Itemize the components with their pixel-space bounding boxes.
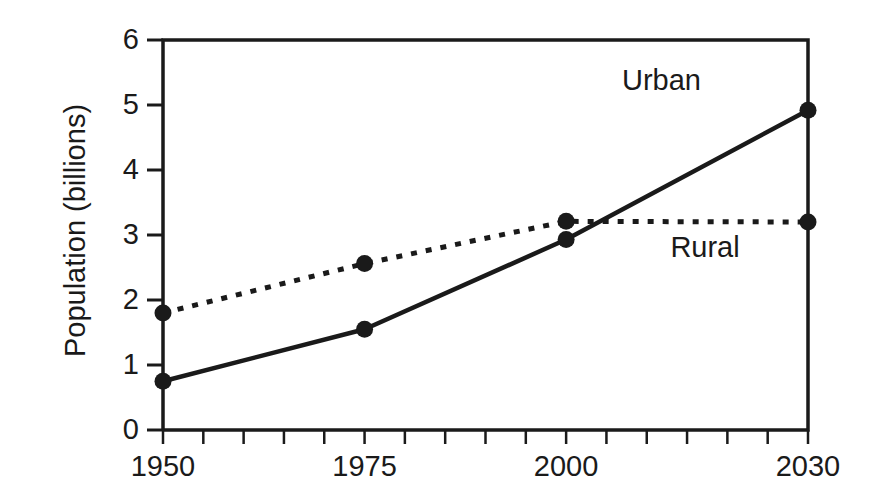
series-label-urban: Urban: [622, 66, 701, 95]
y-axis-ticks: [147, 40, 163, 430]
series-rural: [155, 213, 817, 322]
y-tick-label: 4: [99, 155, 139, 184]
y-tick-label: 3: [99, 220, 139, 249]
data-point: [356, 255, 373, 272]
data-point: [356, 321, 373, 338]
y-axis-title: Population (billions): [59, 36, 92, 426]
y-tick-label: 2: [99, 285, 139, 314]
series-label-rural: Rural: [670, 233, 739, 262]
x-tick-label: 1950: [108, 452, 218, 481]
x-tick-label: 2030: [753, 452, 863, 481]
population-line-chart: Population (billions) 0123456 1950197520…: [0, 0, 878, 498]
data-point: [800, 102, 817, 119]
y-tick-label: 6: [99, 25, 139, 54]
data-point: [155, 305, 172, 322]
y-tick-label: 5: [99, 90, 139, 119]
y-tick-label: 1: [99, 350, 139, 379]
y-tick-label: 0: [99, 415, 139, 444]
data-point: [155, 373, 172, 390]
x-tick-label: 1975: [310, 452, 420, 481]
x-axis-minor-ticks: [163, 430, 808, 444]
data-point: [800, 214, 817, 231]
x-tick-label: 2000: [511, 452, 621, 481]
data-point: [558, 231, 575, 248]
data-point: [558, 213, 575, 230]
